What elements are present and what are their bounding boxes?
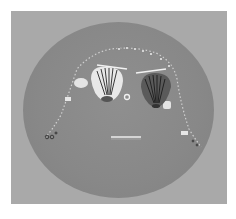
bead-cluster-right bbox=[181, 131, 188, 135]
left-eye-shell bbox=[91, 67, 123, 102]
bead-cluster-left bbox=[65, 97, 71, 101]
right-eyebrow-stick bbox=[136, 69, 166, 73]
left-cheek-pebble bbox=[74, 78, 88, 88]
bead-string-hair bbox=[45, 46, 201, 147]
nose-ring bbox=[125, 95, 130, 100]
photo bbox=[11, 11, 227, 204]
face-artwork bbox=[11, 11, 227, 204]
